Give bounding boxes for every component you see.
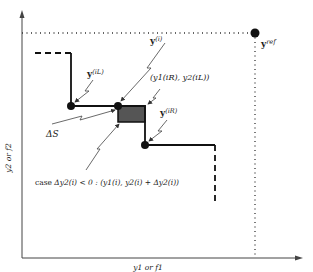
point-y-iR <box>141 141 149 149</box>
point-y-i <box>114 102 122 110</box>
label-case: case Δy2(i) < 0 : (y1(i), y2(i) + Δy2(i)… <box>35 178 179 187</box>
diagram-canvas: yref y(iL) y(i) (y1(iR), y2(iL)) y(iR) Δ… <box>0 0 313 272</box>
y-axis-label: y2 or f2 <box>4 143 13 174</box>
x-axis-arrow-icon <box>295 256 303 261</box>
reference-point <box>251 29 260 38</box>
label-corner-point: (y1(iR), y2(iL)) <box>150 73 209 82</box>
shaded-area-delta-s <box>118 106 145 122</box>
label-y-i: y(i) <box>149 35 163 46</box>
x-axis-label: y1 or f1 <box>132 263 162 272</box>
point-y-iL <box>67 102 75 110</box>
label-y-ref: yref <box>260 38 277 49</box>
label-y-iR: y(iR) <box>159 107 178 118</box>
y-axis-arrow-icon <box>20 10 25 18</box>
label-y-iL: y(iL) <box>86 68 104 79</box>
reference-lines <box>22 33 255 258</box>
label-delta-s: ΔS <box>45 129 59 139</box>
